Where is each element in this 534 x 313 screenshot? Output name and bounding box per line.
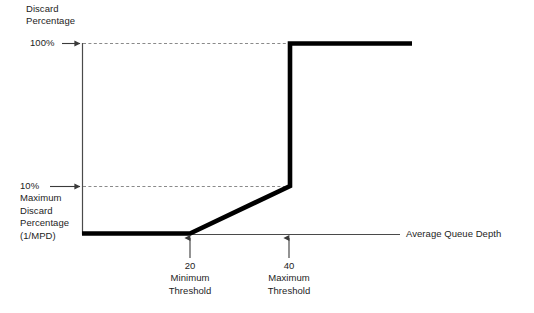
x-tick-label-maximum-threshold: 40 Maximum Threshold [268,260,311,297]
y-axis-title: DiscardPercentage [26,3,75,28]
y-axis-title-line1: Discard [26,3,59,14]
y-axis-title-line2: Percentage [26,15,75,26]
x-tick-label-minimum-threshold: 20 Minimum Threshold [169,260,212,297]
y-tick-label-10-maximum-discard-percentage: 10% Maximum Discard Percentage (1/MPD) [20,180,69,242]
y-tick-label-100: 100% [30,37,55,49]
x-axis-title: Average Queue Depth [406,228,501,240]
red-discard-curve-diagram: DiscardPercentage 100% 10% Maximum Disca… [0,0,534,313]
